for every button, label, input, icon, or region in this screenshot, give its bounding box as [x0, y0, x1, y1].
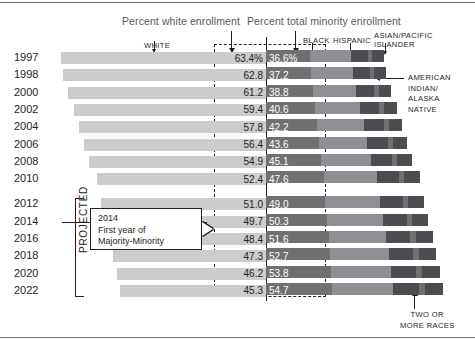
minority-segment-two-or-more-races	[408, 196, 424, 208]
callout-text: 2014 First year of Majority-Minority	[98, 213, 164, 248]
chart-row: 200061.238.8	[0, 85, 475, 101]
minority-segment-asian-pacific-islander	[383, 214, 407, 226]
minority-segment-two-or-more-races	[397, 154, 412, 166]
minority-segment-hispanic	[325, 196, 380, 208]
minority-segment-hispanic	[311, 67, 352, 79]
projected-label: PROJECTED	[78, 185, 89, 255]
minority-segment-hispanic	[331, 266, 391, 278]
minority-segment-hispanic	[324, 171, 377, 183]
minority-value-label: 36.6%	[269, 52, 313, 65]
minority-value-label: 45.1	[269, 155, 313, 168]
minority-segment-asian-pacific-islander	[360, 102, 379, 114]
minority-segment-asian-pacific-islander	[393, 283, 419, 295]
row-year-label: 2008	[14, 155, 54, 167]
chart-row: 202046.253.8	[0, 266, 475, 282]
white-value-label: 48.4	[219, 233, 263, 246]
minority-segment-asian-pacific-islander	[356, 85, 374, 97]
minority-segment-two-or-more-races	[419, 248, 436, 260]
row-year-label: 1997	[14, 51, 54, 63]
minority-value-label: 38.8	[269, 86, 313, 99]
row-year-label: 2018	[14, 249, 54, 261]
chart-row: 201648.451.6	[0, 231, 475, 247]
chart-row: 201847.352.7	[0, 248, 475, 264]
row-year-label: 2006	[14, 138, 54, 150]
white-value-label: 52.4	[219, 173, 263, 186]
chart-row: 201052.447.6	[0, 171, 475, 187]
white-value-label: 63.4%	[219, 52, 263, 65]
minority-segment-hispanic	[321, 154, 371, 166]
row-year-label: 2014	[14, 215, 54, 227]
white-value-label: 45.3	[219, 284, 263, 297]
minority-value-label: 42.2	[269, 121, 313, 134]
row-year-label: 2004	[14, 120, 54, 132]
white-value-label: 51.0	[219, 198, 263, 211]
white-value-label: 59.4	[219, 103, 263, 116]
minority-segment-asian-pacific-islander	[386, 231, 410, 243]
minority-value-label: 47.6	[269, 173, 313, 186]
minority-segment-hispanic	[327, 214, 383, 226]
minority-segment-asian-pacific-islander	[380, 196, 403, 208]
minority-segment-hispanic	[330, 248, 389, 260]
bar-rows-container: 199763.4%36.6%199862.837.2200061.238.820…	[0, 0, 475, 340]
minority-value-label: 54.7	[269, 284, 313, 297]
white-value-label: 46.2	[219, 267, 263, 280]
row-year-label: 2012	[14, 197, 54, 209]
minority-segment-two-or-more-races	[389, 119, 403, 131]
callout-pointer-icon	[202, 222, 213, 236]
minority-segment-two-or-more-races	[422, 266, 439, 278]
minority-segment-hispanic	[313, 85, 356, 97]
white-value-label: 61.2	[219, 86, 263, 99]
minority-segment-two-or-more-races	[384, 102, 397, 114]
white-value-label: 62.8	[219, 69, 263, 82]
minority-value-label: 53.8	[269, 267, 313, 280]
chart-row: 199862.837.2	[0, 67, 475, 83]
minority-segment-asian-pacific-islander	[353, 67, 370, 79]
minority-segment-hispanic	[319, 137, 368, 149]
minority-segment-hispanic	[310, 50, 351, 62]
row-year-label: 2000	[14, 86, 54, 98]
row-year-label: 1998	[14, 68, 54, 80]
minority-segment-asian-pacific-islander	[364, 119, 384, 131]
white-value-label: 49.7	[219, 215, 263, 228]
minority-segment-hispanic	[315, 102, 360, 114]
minority-segment-two-or-more-races	[372, 50, 384, 62]
minority-segment-hispanic	[329, 231, 387, 243]
chart-row: 200457.842.2	[0, 119, 475, 135]
row-year-label: 2010	[14, 172, 54, 184]
minority-segment-two-or-more-races	[404, 171, 419, 183]
minority-value-label: 52.7	[269, 250, 313, 263]
minority-segment-asian-pacific-islander	[391, 266, 416, 278]
minority-value-label: 40.6	[269, 103, 313, 116]
minority-segment-asian-pacific-islander	[389, 248, 414, 260]
minority-value-label: 49.0	[269, 198, 313, 211]
chart-row: 201251.049.0	[0, 196, 475, 212]
majority-minority-callout: 2014 First year of Majority-Minority	[90, 208, 202, 250]
white-value-label: 57.8	[219, 121, 263, 134]
minority-segment-two-or-more-races	[416, 231, 433, 243]
white-value-label: 54.9	[219, 155, 263, 168]
minority-segment-two-or-more-races	[412, 214, 428, 226]
minority-segment-asian-pacific-islander	[377, 171, 399, 183]
chart-row: 200656.443.6	[0, 137, 475, 153]
row-year-label: 2020	[14, 267, 54, 279]
row-year-label: 2022	[14, 284, 54, 296]
chart-row: 200854.945.1	[0, 154, 475, 170]
minority-value-label: 51.6	[269, 233, 313, 246]
minority-segment-two-or-more-races	[374, 67, 386, 79]
minority-segment-two-or-more-races	[379, 85, 392, 97]
minority-segment-hispanic	[317, 119, 364, 131]
white-value-label: 47.3	[219, 250, 263, 263]
chart-row: 200259.440.6	[0, 102, 475, 118]
chart-row: 199763.4%36.6%	[0, 50, 475, 66]
minority-segment-asian-pacific-islander	[371, 154, 392, 166]
chart-row: 202245.354.7	[0, 283, 475, 299]
row-year-label: 2002	[14, 103, 54, 115]
minority-value-label: 37.2	[269, 69, 313, 82]
white-value-label: 56.4	[219, 138, 263, 151]
minority-segment-two-or-more-races	[425, 283, 443, 295]
minority-segment-asian-pacific-islander	[351, 50, 368, 62]
minority-value-label: 50.3	[269, 215, 313, 228]
enrollment-stacked-bar-chart: Percent white enrollment Percent total m…	[0, 0, 475, 340]
minority-value-label: 43.6	[269, 138, 313, 151]
minority-segment-asian-pacific-islander	[367, 137, 387, 149]
